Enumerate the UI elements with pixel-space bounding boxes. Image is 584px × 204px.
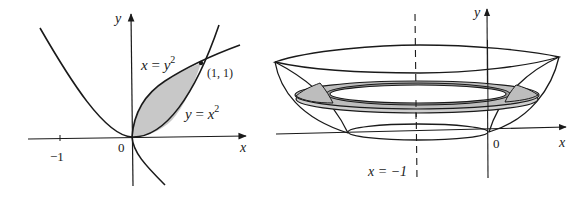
y-axis-label: y	[472, 5, 481, 20]
y-axis	[131, 14, 133, 186]
intersection-point	[199, 61, 203, 65]
left-graph: y x 0 −1 x = y2 (1, 1) y = x2	[28, 11, 247, 186]
tick-label-minus-one: −1	[50, 149, 64, 164]
label-y-equals-x-squared: y = x2	[183, 103, 219, 122]
right-solid-of-revolution: y x 0 x = −1	[275, 5, 566, 180]
label-point-1-1: (1, 1)	[207, 66, 233, 80]
shaded-region	[132, 63, 201, 137]
figure-canvas: y x 0 −1 x = y2 (1, 1) y = x2	[0, 0, 584, 204]
axis-of-rotation-label: x = −1	[367, 164, 407, 179]
washer-slice	[295, 81, 539, 113]
top-ellipse	[275, 45, 559, 73]
y-axis-overlay	[488, 40, 489, 110]
x-axis-label: x	[239, 140, 247, 155]
origin-label: 0	[118, 140, 125, 155]
y-axis-label: y	[113, 11, 122, 26]
x-axis-label: x	[558, 135, 566, 150]
x-axis	[276, 127, 566, 134]
origin-label: 0	[493, 136, 500, 151]
label-x-equals-y-squared: x = y2	[140, 54, 175, 73]
